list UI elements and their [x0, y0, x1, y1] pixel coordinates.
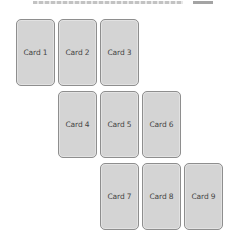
- card-board: Card 1 Card 2 Card 3 Card 4 Card 5 Card …: [0, 0, 239, 244]
- card-label: Card 5: [107, 120, 131, 129]
- card-5[interactable]: Card 5: [100, 91, 139, 158]
- card-6[interactable]: Card 6: [142, 91, 181, 158]
- card-7[interactable]: Card 7: [100, 163, 139, 230]
- card-3[interactable]: Card 3: [100, 19, 139, 86]
- card-label: Card 3: [107, 48, 131, 57]
- card-label: Card 8: [149, 192, 173, 201]
- card-label: Card 2: [65, 48, 89, 57]
- card-label: Card 7: [107, 192, 131, 201]
- card-label: Card 1: [23, 48, 47, 57]
- card-label: Card 4: [65, 120, 89, 129]
- card-9[interactable]: Card 9: [184, 163, 223, 230]
- card-label: Card 9: [191, 192, 215, 201]
- card-1[interactable]: Card 1: [16, 19, 55, 86]
- card-label: Card 6: [149, 120, 173, 129]
- card-4[interactable]: Card 4: [58, 91, 97, 158]
- card-8[interactable]: Card 8: [142, 163, 181, 230]
- card-2[interactable]: Card 2: [58, 19, 97, 86]
